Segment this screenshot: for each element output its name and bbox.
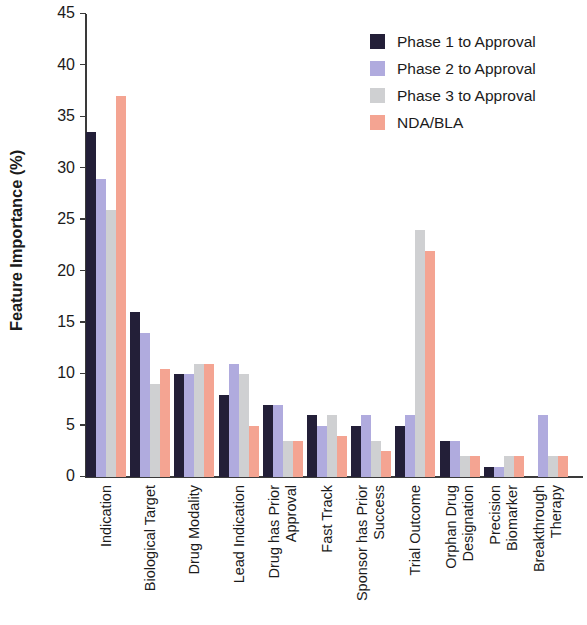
- bar: [204, 364, 214, 477]
- x-axis-tick-label: Drug has Prior Approval: [266, 485, 300, 625]
- bar-group: [86, 14, 126, 477]
- bar: [283, 441, 293, 477]
- bar: [140, 333, 150, 477]
- bar: [381, 451, 391, 477]
- bar: [194, 364, 204, 477]
- bar: [174, 374, 184, 477]
- feature-importance-chart: Feature Importance (%) 45403530252015105…: [0, 0, 587, 625]
- legend-swatch-icon: [370, 115, 385, 130]
- x-axis-tick-label: Breakthrough Therapy: [531, 485, 565, 625]
- y-axis-tick-label: 25: [57, 210, 75, 228]
- bar-group: [219, 14, 259, 477]
- bar-group: [130, 14, 170, 477]
- legend-item[interactable]: Phase 1 to Approval: [370, 28, 585, 55]
- bar: [184, 374, 194, 477]
- legend-item-label: NDA/BLA: [397, 114, 463, 132]
- bar: [460, 456, 470, 477]
- bar: [317, 426, 327, 477]
- bar: [450, 441, 460, 477]
- legend-item-label: Phase 2 to Approval: [397, 60, 536, 78]
- bar: [96, 179, 106, 477]
- legend-item-label: Phase 3 to Approval: [397, 87, 536, 105]
- x-axis-tick-label: Indication: [98, 485, 116, 625]
- bar: [249, 426, 259, 477]
- bar: [106, 210, 116, 478]
- legend-item[interactable]: Phase 3 to Approval: [370, 82, 585, 109]
- y-axis-tick-label: 10: [57, 364, 75, 382]
- bar: [219, 395, 229, 477]
- legend-swatch-icon: [370, 61, 385, 76]
- bar: [150, 384, 160, 477]
- bar: [440, 441, 450, 477]
- bar: [504, 456, 514, 477]
- bar: [337, 436, 347, 477]
- legend-swatch-icon: [370, 34, 385, 49]
- bar: [494, 467, 504, 477]
- legend-item[interactable]: Phase 2 to Approval: [370, 55, 585, 82]
- bar: [229, 364, 239, 477]
- x-axis-tick-label: Lead Indication: [231, 485, 249, 625]
- bar: [86, 132, 96, 477]
- bar: [293, 441, 303, 477]
- y-axis-tick-label: 40: [57, 56, 75, 74]
- y-axis-tick-label: 5: [66, 416, 75, 434]
- bar: [425, 251, 435, 477]
- y-axis-tick-label: 30: [57, 159, 75, 177]
- x-axis-tick-label: Sponsor has Prior Success: [354, 485, 388, 625]
- bar: [415, 230, 425, 477]
- y-axis-tick-label: 0: [66, 467, 75, 485]
- x-axis-tick-label: Trial Outcome: [407, 485, 425, 625]
- y-axis-tick-label: 45: [57, 4, 75, 22]
- bar: [116, 96, 126, 477]
- y-axis-tick-label: 35: [57, 107, 75, 125]
- bar: [239, 374, 249, 477]
- legend-item[interactable]: NDA/BLA: [370, 109, 585, 136]
- bar-group: [307, 14, 347, 477]
- bar: [273, 405, 283, 477]
- legend: Phase 1 to ApprovalPhase 2 to ApprovalPh…: [370, 28, 585, 136]
- bar: [307, 415, 317, 477]
- bar: [327, 415, 337, 477]
- bar-group: [263, 14, 303, 477]
- x-axis-tick-label: Orphan Drug Designation: [443, 485, 477, 625]
- y-axis-tick-label: 20: [57, 262, 75, 280]
- bar: [514, 456, 524, 477]
- legend-item-label: Phase 1 to Approval: [397, 33, 536, 51]
- y-axis-title-text: Feature Importance (%): [8, 149, 27, 330]
- bar: [484, 467, 494, 477]
- x-axis-tick-label: Fast Track: [319, 485, 337, 625]
- bar: [395, 426, 405, 477]
- bar: [263, 405, 273, 477]
- bar: [470, 456, 480, 477]
- bar: [371, 441, 381, 477]
- bar: [361, 415, 371, 477]
- x-axis-tick-label: Drug Modality: [186, 485, 204, 625]
- bar: [405, 415, 415, 477]
- y-axis-title: Feature Importance (%): [0, 0, 34, 480]
- bar: [538, 415, 548, 477]
- x-axis-tick-label: Precision Biomarker: [487, 485, 521, 625]
- bar: [351, 426, 361, 477]
- bar: [160, 369, 170, 477]
- bar: [548, 456, 558, 477]
- bar-group: [174, 14, 214, 477]
- bar: [130, 312, 140, 477]
- bar: [558, 456, 568, 477]
- legend-swatch-icon: [370, 88, 385, 103]
- x-axis-tick-label: Biological Target: [142, 485, 160, 625]
- y-axis-tick-label: 15: [57, 313, 75, 331]
